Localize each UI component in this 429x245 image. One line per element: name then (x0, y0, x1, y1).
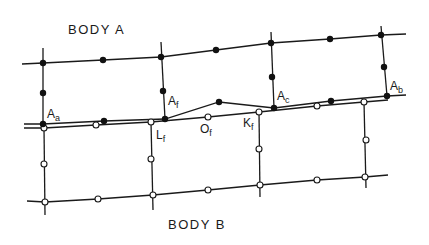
body-b-node (41, 161, 47, 167)
body-b-node (93, 122, 99, 128)
body-b-node (257, 182, 263, 188)
body-a-node (269, 74, 275, 80)
body-a-node (40, 121, 46, 127)
body-a-node (213, 47, 219, 53)
body-a-node (381, 64, 387, 70)
node-label-kf: Kf (243, 117, 254, 132)
body-a-node (162, 116, 168, 122)
body-a-node (158, 54, 164, 60)
body-b-node (361, 99, 367, 105)
body-b-node (256, 109, 262, 115)
body-b-node (95, 196, 101, 202)
body-a-node (328, 98, 334, 104)
body-a-node (268, 40, 274, 46)
body-a-node (160, 88, 166, 94)
body-a-node (378, 32, 384, 38)
body-a-node (216, 99, 222, 105)
body-b-title: BODY B (168, 218, 226, 231)
body-b-node (362, 174, 368, 180)
body-a-bottom-edge-line (24, 95, 406, 124)
node-label-ac: Ac (277, 90, 290, 105)
body-a-node (327, 36, 333, 42)
body-b-nodes (41, 99, 369, 205)
body-a-vertical-line (161, 42, 165, 119)
body-a-node (101, 118, 107, 124)
body-a-node (40, 60, 46, 66)
body-b-node (363, 137, 369, 143)
node-label-ab: Ab (390, 80, 403, 95)
body-a-title: BODY A (68, 23, 125, 36)
node-label-of: Of (200, 123, 212, 138)
body-b-node (148, 156, 154, 162)
body-a-node (100, 57, 106, 63)
node-label-lf: Lf (156, 129, 165, 144)
body-b-node (150, 192, 156, 198)
body-b-node (314, 103, 320, 109)
body-a-mesh-lines (22, 26, 406, 124)
body-b-node (205, 187, 211, 193)
body-b-node (205, 114, 211, 120)
node-label-af: Af (168, 95, 179, 110)
body-b-node (256, 146, 262, 152)
body-b-node (314, 177, 320, 183)
body-a-nodes (40, 32, 390, 127)
body-a-node (271, 105, 277, 111)
body-a-node (40, 90, 46, 96)
contact-mesh-diagram (0, 0, 429, 245)
body-b-node (42, 199, 48, 205)
node-label-aa: Aa (47, 108, 60, 123)
body-b-node (148, 119, 154, 125)
